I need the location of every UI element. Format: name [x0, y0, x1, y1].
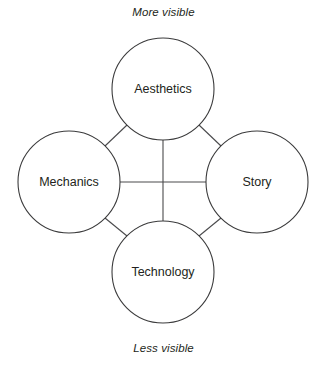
connector-aesthetics-mechanics: [105, 125, 127, 146]
connector-story-technology: [199, 218, 221, 236]
connector-group: [105, 125, 221, 236]
node-label-story: Story: [242, 175, 272, 189]
node-mechanics[interactable]: Mechanics: [18, 131, 120, 233]
node-story[interactable]: Story: [206, 131, 308, 233]
node-label-mechanics: Mechanics: [39, 175, 99, 189]
connector-aesthetics-story: [199, 125, 221, 146]
tetrad-graphic: Aesthetics Mechanics Story Technology: [0, 0, 327, 365]
node-label-aesthetics: Aesthetics: [134, 82, 192, 96]
diagram-canvas: More visible Aesthetics Mechanics Story: [0, 0, 327, 365]
node-label-technology: Technology: [131, 265, 195, 279]
node-aesthetics[interactable]: Aesthetics: [112, 38, 214, 140]
connector-mechanics-technology: [105, 218, 127, 236]
axis-label-less-visible: Less visible: [0, 342, 327, 354]
node-technology[interactable]: Technology: [112, 221, 214, 323]
